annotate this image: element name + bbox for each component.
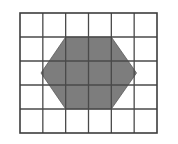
hexagon-grid-figure bbox=[0, 0, 178, 144]
figure-container bbox=[0, 0, 178, 144]
